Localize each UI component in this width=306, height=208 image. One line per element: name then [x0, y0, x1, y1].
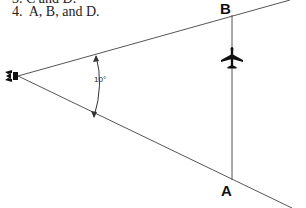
- lower-beam-line: [18, 76, 292, 208]
- angle-arc: [94, 56, 100, 117]
- arc-arrow-bottom: [91, 111, 97, 118]
- upper-beam-line: [18, 0, 290, 76]
- radar-antenna-icon: [5, 70, 18, 82]
- arc-arrow-top: [93, 55, 99, 62]
- point-label-a: A: [221, 182, 232, 199]
- point-label-b: B: [220, 0, 231, 17]
- beam-diagram: 10° B A: [0, 0, 306, 208]
- airplane-icon: [221, 47, 243, 69]
- angle-label: 10°: [94, 75, 106, 84]
